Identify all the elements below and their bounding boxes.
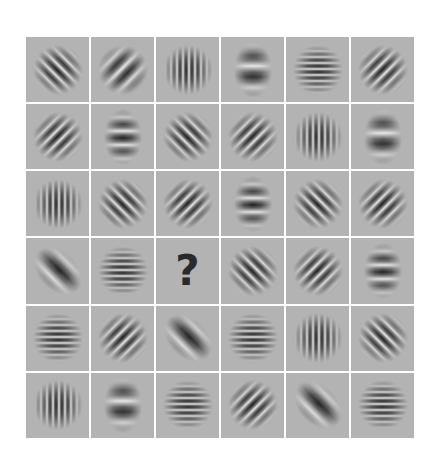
gabor-patch-icon bbox=[97, 245, 149, 297]
grid-cell-r4-c3[interactable]: ? bbox=[156, 238, 219, 303]
gabor-patch-icon bbox=[162, 379, 214, 431]
grid-cell-r2-c3[interactable] bbox=[156, 104, 219, 169]
gabor-patch-icon bbox=[292, 178, 344, 230]
grid-cell-r1-c1[interactable] bbox=[26, 37, 89, 102]
grid-cell-r5-c5[interactable] bbox=[286, 306, 349, 371]
gabor-patch-icon bbox=[227, 245, 279, 297]
grid-cell-r3-c5[interactable] bbox=[286, 171, 349, 236]
gabor-patch-icon bbox=[357, 44, 409, 96]
gabor-patch-icon bbox=[292, 44, 344, 96]
gabor-patch-icon bbox=[26, 238, 89, 303]
gabor-patch-icon bbox=[227, 379, 279, 431]
gabor-patch-icon bbox=[32, 312, 84, 364]
grid-cell-r2-c4[interactable] bbox=[221, 104, 284, 169]
gabor-patch-icon bbox=[292, 245, 344, 297]
grid-cell-r1-c3[interactable] bbox=[156, 37, 219, 102]
gabor-patch-icon bbox=[227, 312, 279, 364]
grid-cell-r3-c4[interactable] bbox=[221, 171, 284, 236]
gabor-patch-icon bbox=[162, 111, 214, 163]
gabor-patch-icon bbox=[363, 108, 403, 166]
gabor-patch-icon bbox=[32, 44, 84, 96]
gabor-patch-icon bbox=[32, 379, 84, 431]
gabor-patch-icon bbox=[363, 242, 403, 300]
gabor-puzzle-grid: ? bbox=[26, 37, 414, 438]
grid-cell-r3-c1[interactable] bbox=[26, 171, 89, 236]
gabor-patch-icon bbox=[32, 111, 84, 163]
gabor-patch-icon bbox=[156, 306, 219, 371]
gabor-patch-icon bbox=[357, 379, 409, 431]
grid-cell-r4-c4[interactable] bbox=[221, 238, 284, 303]
gabor-patch-icon bbox=[286, 373, 349, 438]
grid-cell-r1-c6[interactable] bbox=[351, 37, 414, 102]
grid-cell-r3-c6[interactable] bbox=[351, 171, 414, 236]
gabor-patch-icon bbox=[357, 178, 409, 230]
gabor-patch-icon bbox=[227, 111, 279, 163]
gabor-patch-icon bbox=[103, 108, 143, 166]
gabor-patch-icon bbox=[233, 41, 273, 99]
gabor-patch-icon bbox=[292, 312, 344, 364]
gabor-patch-icon bbox=[97, 44, 149, 96]
grid-cell-r1-c2[interactable] bbox=[91, 37, 154, 102]
grid-cell-r5-c4[interactable] bbox=[221, 306, 284, 371]
grid-cell-r2-c6[interactable] bbox=[351, 104, 414, 169]
gabor-patch-icon bbox=[357, 312, 409, 364]
gabor-patch-icon bbox=[233, 175, 273, 233]
grid-cell-r6-c4[interactable] bbox=[221, 373, 284, 438]
grid-cell-r6-c2[interactable] bbox=[91, 373, 154, 438]
grid-cell-r6-c3[interactable] bbox=[156, 373, 219, 438]
grid-cell-r4-c1[interactable] bbox=[26, 238, 89, 303]
grid-cell-r1-c5[interactable] bbox=[286, 37, 349, 102]
grid-cell-r1-c4[interactable] bbox=[221, 37, 284, 102]
gabor-patch-icon bbox=[103, 376, 143, 434]
gabor-patch-icon bbox=[97, 312, 149, 364]
grid-cell-r5-c6[interactable] bbox=[351, 306, 414, 371]
grid-cell-r6-c5[interactable] bbox=[286, 373, 349, 438]
grid-cell-r5-c3[interactable] bbox=[156, 306, 219, 371]
gabor-patch-icon bbox=[97, 178, 149, 230]
grid-cell-r4-c5[interactable] bbox=[286, 238, 349, 303]
grid-cell-r3-c2[interactable] bbox=[91, 171, 154, 236]
grid-cell-r6-c1[interactable] bbox=[26, 373, 89, 438]
gabor-patch-icon bbox=[292, 111, 344, 163]
grid-cell-r5-c1[interactable] bbox=[26, 306, 89, 371]
question-mark-icon: ? bbox=[175, 250, 199, 292]
gabor-patch-icon bbox=[162, 178, 214, 230]
grid-cell-r2-c1[interactable] bbox=[26, 104, 89, 169]
gabor-patch-icon bbox=[162, 44, 214, 96]
grid-cell-r3-c3[interactable] bbox=[156, 171, 219, 236]
gabor-patch-icon bbox=[32, 178, 84, 230]
grid-cell-r5-c2[interactable] bbox=[91, 306, 154, 371]
grid-cell-r2-c2[interactable] bbox=[91, 104, 154, 169]
grid-cell-r4-c2[interactable] bbox=[91, 238, 154, 303]
grid-cell-r6-c6[interactable] bbox=[351, 373, 414, 438]
grid-cell-r4-c6[interactable] bbox=[351, 238, 414, 303]
grid-cell-r2-c5[interactable] bbox=[286, 104, 349, 169]
